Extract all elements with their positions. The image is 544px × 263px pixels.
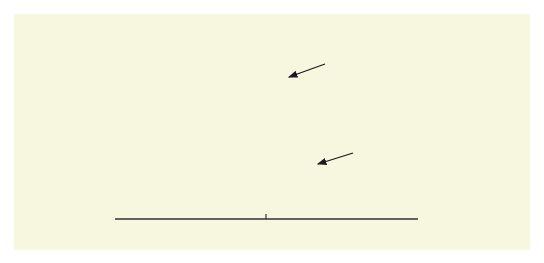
sigma-10-arrow (318, 153, 353, 164)
sigma-5-arrow (289, 64, 325, 77)
normal-curves-chart (0, 0, 544, 263)
